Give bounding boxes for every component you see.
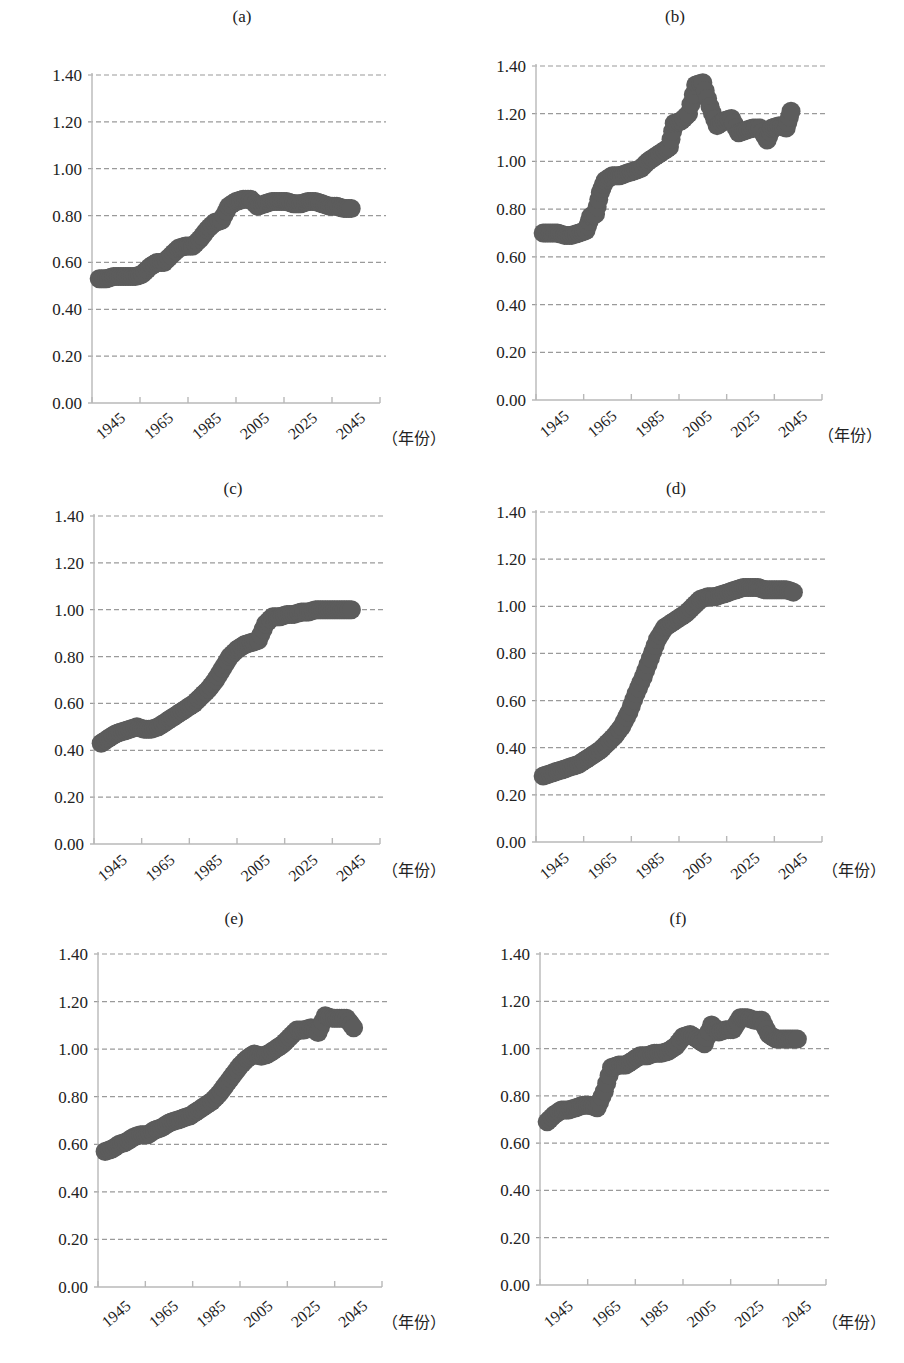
- y-tick-label: 0.20: [54, 788, 84, 807]
- data-point: [784, 583, 803, 602]
- data-series: [538, 1008, 807, 1131]
- chart-panel-f: (f)0.000.200.400.600.801.001.201.4019451…: [470, 900, 904, 1360]
- x-tick-label: 2005: [684, 1297, 719, 1331]
- x-tick-label: 2045: [779, 1297, 814, 1331]
- x-axis-unit-label: （年份）: [382, 429, 446, 448]
- x-tick-label: 1965: [141, 409, 176, 443]
- x-tick-label: 2005: [237, 409, 272, 443]
- chart-panel-d: (d)0.000.200.400.600.801.001.201.4019451…: [470, 470, 904, 930]
- x-tick-label: 2045: [333, 851, 368, 885]
- x-tick-label: 2025: [288, 1297, 323, 1331]
- x-tick-label: 1985: [190, 851, 225, 885]
- panel-title: (e): [225, 909, 244, 928]
- data-point: [782, 102, 801, 121]
- y-tick-label: 0.60: [500, 1134, 530, 1153]
- x-tick-label: 2045: [775, 407, 810, 441]
- y-tick-label: 1.40: [52, 66, 82, 85]
- x-tick-label: 1985: [189, 409, 224, 443]
- x-tick-label: 1945: [537, 849, 572, 883]
- x-tick-label: 1965: [146, 1297, 181, 1331]
- y-tick-label: 0.00: [496, 391, 526, 410]
- x-tick-label: 1945: [98, 1297, 133, 1331]
- y-tick-label: 1.20: [496, 550, 526, 569]
- x-tick-label: 1945: [95, 851, 130, 885]
- y-tick-label: 0.60: [54, 694, 84, 713]
- y-tick-label: 1.20: [58, 993, 88, 1012]
- x-tick-label: 2045: [775, 849, 810, 883]
- x-tick-label: 1965: [584, 407, 619, 441]
- y-tick-label: 0.40: [496, 739, 526, 758]
- x-axis-unit-label: （年份）: [822, 1313, 886, 1332]
- data-series: [534, 73, 801, 245]
- panel-title: (c): [224, 479, 243, 498]
- x-tick-label: 1965: [142, 851, 177, 885]
- x-axis-unit-label: （年份）: [822, 861, 886, 880]
- x-tick-label: 2025: [731, 1297, 766, 1331]
- data-point: [788, 1030, 807, 1049]
- panel-title: (f): [670, 909, 687, 928]
- panel-title: (d): [666, 479, 686, 498]
- y-tick-label: 1.00: [496, 597, 526, 616]
- panel-title: (a): [233, 7, 252, 26]
- data-series: [534, 578, 803, 786]
- chart-panel-c: (c)0.000.200.400.600.801.001.201.4019451…: [30, 470, 464, 930]
- y-tick-label: 0.60: [52, 253, 82, 272]
- data-point: [344, 1018, 363, 1037]
- x-tick-label: 2025: [727, 849, 762, 883]
- y-tick-label: 0.20: [58, 1230, 88, 1249]
- y-tick-label: 0.60: [496, 692, 526, 711]
- y-tick-label: 0.40: [54, 741, 84, 760]
- y-tick-label: 1.00: [54, 601, 84, 620]
- y-tick-label: 1.40: [500, 945, 530, 964]
- y-tick-label: 0.80: [54, 648, 84, 667]
- x-tick-label: 2025: [285, 409, 320, 443]
- x-tick-label: 1985: [636, 1297, 671, 1331]
- x-axis-unit-label: （年份）: [382, 861, 446, 880]
- y-tick-label: 1.20: [52, 113, 82, 132]
- x-tick-label: 1985: [632, 849, 667, 883]
- x-tick-label: 2005: [680, 407, 715, 441]
- panel-title: (b): [665, 7, 685, 26]
- x-tick-label: 1945: [93, 409, 128, 443]
- y-tick-label: 1.20: [54, 554, 84, 573]
- x-tick-label: 1985: [193, 1297, 228, 1331]
- data-series: [96, 1006, 364, 1161]
- x-tick-label: 2025: [727, 407, 762, 441]
- y-tick-label: 0.00: [54, 835, 84, 854]
- y-tick-label: 0.40: [500, 1181, 530, 1200]
- y-tick-label: 0.20: [496, 786, 526, 805]
- y-tick-label: 1.00: [500, 1040, 530, 1059]
- y-tick-label: 0.80: [500, 1087, 530, 1106]
- y-tick-label: 1.00: [52, 160, 82, 179]
- y-tick-label: 0.80: [52, 207, 82, 226]
- x-tick-label: 2005: [238, 851, 273, 885]
- y-tick-label: 0.60: [58, 1135, 88, 1154]
- x-tick-label: 2005: [240, 1297, 275, 1331]
- x-tick-label: 2045: [333, 409, 368, 443]
- y-tick-label: 1.00: [58, 1040, 88, 1059]
- chart-panel-a: (a)0.000.200.400.600.801.001.201.4019451…: [30, 0, 464, 460]
- y-tick-label: 0.20: [500, 1229, 530, 1248]
- y-tick-label: 0.60: [496, 248, 526, 267]
- x-tick-label: 2005: [680, 849, 715, 883]
- x-tick-label: 2025: [285, 851, 320, 885]
- y-tick-label: 1.40: [496, 503, 526, 522]
- y-tick-label: 1.00: [496, 152, 526, 171]
- y-tick-label: 1.40: [58, 945, 88, 964]
- chart-panel-b: (b)0.000.200.400.600.801.001.201.4019451…: [470, 0, 904, 460]
- y-tick-label: 0.40: [58, 1183, 88, 1202]
- x-axis-unit-label: （年份）: [382, 1313, 446, 1332]
- y-tick-label: 0.00: [52, 394, 82, 413]
- y-tick-label: 0.80: [58, 1088, 88, 1107]
- y-tick-label: 1.20: [500, 992, 530, 1011]
- data-point: [342, 199, 361, 218]
- y-tick-label: 0.80: [496, 644, 526, 663]
- y-tick-label: 0.20: [52, 347, 82, 366]
- chart-panel-e: (e)0.000.200.400.600.801.001.201.4019451…: [30, 900, 464, 1360]
- y-tick-label: 0.80: [496, 200, 526, 219]
- y-tick-label: 0.00: [58, 1278, 88, 1297]
- x-tick-label: 1945: [537, 407, 572, 441]
- x-tick-label: 1965: [588, 1297, 623, 1331]
- data-series: [92, 600, 361, 753]
- y-tick-label: 0.40: [496, 296, 526, 315]
